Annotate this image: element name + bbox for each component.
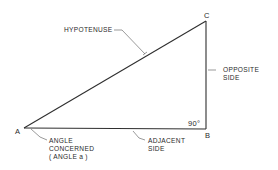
adjacent-side-edge: [24, 128, 206, 129]
hypotenuse-leader-line: [114, 30, 145, 54]
vertex-b-label: B: [205, 131, 210, 140]
angle-concerned-label-line1: ANGLE: [49, 137, 73, 144]
vertex-a-label: A: [15, 127, 20, 136]
opposite-side-label-line1: OPPOSITE: [223, 66, 259, 73]
angle-concerned-label-line3: ( ANGLE a ): [49, 153, 88, 161]
hypotenuse-edge: [24, 21, 206, 128]
angle-leader-line: [31, 129, 47, 140]
right-triangle-diagram: A B C 90° HYPOTENUSE OPPOSITE SIDE ADJAC…: [0, 0, 278, 170]
adjacent-side-label-line2: SIDE: [148, 145, 165, 152]
hypotenuse-label: HYPOTENUSE: [64, 26, 113, 33]
angle-concerned-label-line2: CONCERNED: [49, 145, 94, 152]
adjacent-leader-line: [133, 131, 145, 140]
opposite-side-label-line2: SIDE: [223, 74, 240, 81]
vertex-c-label: C: [204, 11, 210, 20]
right-angle-label: 90°: [188, 119, 200, 128]
adjacent-side-label-line1: ADJACENT: [148, 137, 185, 144]
